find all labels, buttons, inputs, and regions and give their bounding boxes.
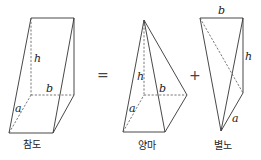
tetra-hidden-diagonal-edge — [200, 18, 243, 93]
prism-label-h: h — [34, 52, 41, 65]
prism-front-left-edge — [9, 18, 31, 133]
plus-sign: + — [189, 67, 201, 83]
tetra-label-b: b — [218, 4, 225, 17]
tetra-label-h: h — [245, 50, 252, 63]
tetra-left-edge — [200, 18, 221, 131]
pyramid-label-a: a — [129, 102, 136, 115]
pyramid-label-h: h — [137, 70, 144, 83]
caption-byeolno: 별노 — [203, 137, 243, 152]
solids-decomposition-diagram: h b a = h b a + — [0, 0, 261, 160]
pyramid-front-right-edge — [144, 20, 165, 132]
prism-front-right-edge — [53, 18, 74, 133]
tetra-label-a: a — [232, 112, 239, 125]
pyramid-label-b: b — [159, 82, 166, 95]
byeolno-tetrahedron: b h a — [200, 4, 252, 131]
caption-chamdo: 참도 — [12, 136, 52, 151]
prism-label-a: a — [15, 102, 22, 115]
yangma-pyramid: h b a — [123, 20, 187, 132]
caption-yangma: 양마 — [127, 137, 167, 152]
pyramid-base-right-edge — [165, 95, 187, 132]
equals-sign: = — [97, 67, 109, 83]
chamdo-prism: h b a — [9, 18, 74, 133]
prism-label-b: b — [46, 82, 53, 95]
